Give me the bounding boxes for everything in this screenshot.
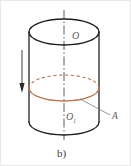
- figure-container: O O 1 A b): [0, 0, 131, 166]
- figure-caption: b): [57, 147, 67, 160]
- label-center-bottom-subscript: 1: [73, 118, 76, 124]
- leader-line-to-a: [80, 99, 110, 115]
- label-point-a: A: [111, 111, 118, 121]
- label-center-bottom-group: O 1: [66, 111, 76, 124]
- cylinder-diagram: O O 1 A b): [0, 0, 131, 166]
- label-center-top: O: [72, 30, 79, 41]
- motion-arrow-head-icon: [19, 83, 24, 93]
